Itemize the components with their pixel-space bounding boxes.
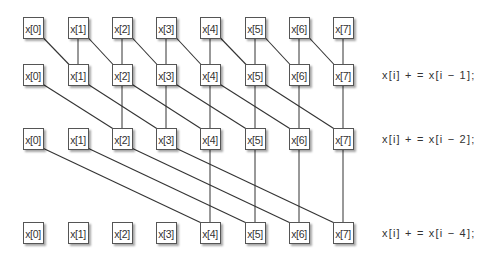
array-node-row3-col6: x[6]: [289, 222, 310, 244]
array-node-row1-col1: x[1]: [68, 64, 89, 86]
array-node-row0-col4: x[4]: [200, 17, 221, 39]
wire: [43, 148, 202, 223]
array-node-row2-col2: x[2]: [112, 128, 133, 150]
array-node-row1-col3: x[3]: [156, 64, 177, 86]
array-node-row0-col3: x[3]: [156, 17, 177, 39]
wire: [176, 37, 202, 65]
array-node-row3-col7: x[7]: [333, 222, 354, 244]
wire: [176, 84, 247, 129]
array-node-row3-col3: x[3]: [156, 222, 177, 244]
array-node-row0-col6: x[6]: [289, 17, 310, 39]
array-node-row3-col2: x[2]: [112, 222, 133, 244]
array-node-row1-col5: x[5]: [245, 64, 266, 86]
array-node-row3-col1: x[1]: [68, 222, 89, 244]
array-node-row2-col7: x[7]: [333, 128, 354, 150]
array-node-row0-col5: x[5]: [245, 17, 266, 39]
array-node-row3-col5: x[5]: [245, 222, 266, 244]
array-node-row1-col0: x[0]: [23, 64, 44, 86]
array-node-row0-col7: x[7]: [333, 17, 354, 39]
array-node-row2-col6: x[6]: [289, 128, 310, 150]
wire: [220, 37, 247, 65]
array-node-row2-col0: x[0]: [23, 128, 44, 150]
array-node-row2-col5: x[5]: [245, 128, 266, 150]
wire: [43, 84, 114, 129]
array-node-row1-col6: x[6]: [289, 64, 310, 86]
wire: [88, 37, 114, 65]
array-node-row3-col4: x[4]: [200, 222, 221, 244]
step-label-offset-4: x[i] + = x[i − 4];: [382, 227, 475, 239]
array-node-row1-col4: x[4]: [200, 64, 221, 86]
wire: [132, 37, 158, 65]
array-node-row2-col1: x[1]: [68, 128, 89, 150]
array-node-row3-col0: x[0]: [23, 222, 44, 244]
wire: [309, 37, 335, 65]
wire: [132, 148, 291, 223]
array-node-row0-col0: x[0]: [23, 17, 44, 39]
wire: [43, 37, 70, 65]
array-node-row0-col2: x[2]: [112, 17, 133, 39]
array-node-row2-col4: x[4]: [200, 128, 221, 150]
wire: [88, 148, 247, 223]
wire: [265, 37, 291, 65]
array-node-row1-col2: x[2]: [112, 64, 133, 86]
array-node-row1-col7: x[7]: [333, 64, 354, 86]
array-node-row0-col1: x[1]: [68, 17, 89, 39]
step-label-offset-2: x[i] + = x[i − 2];: [382, 133, 475, 145]
array-node-row2-col3: x[3]: [156, 128, 177, 150]
step-label-offset-1: x[i] + = x[i − 1];: [382, 69, 475, 81]
